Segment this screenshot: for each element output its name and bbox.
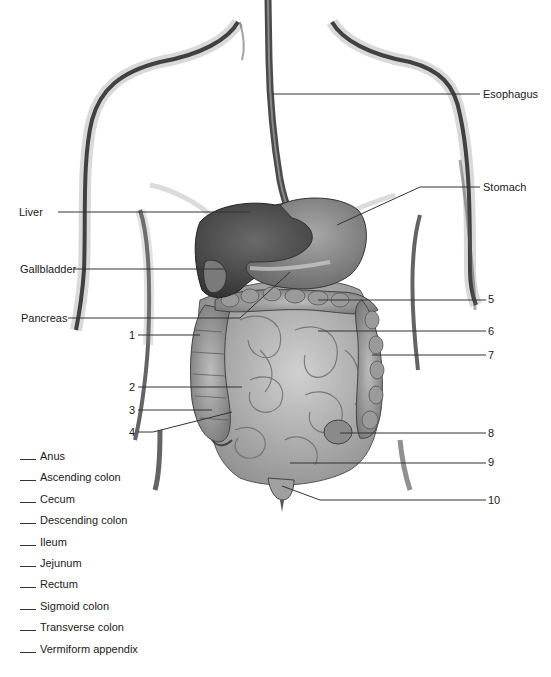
label-number-7: 7 <box>488 349 494 362</box>
word-bank-item: Jejunum <box>20 557 138 578</box>
label-number-8: 8 <box>488 427 494 440</box>
word-bank-item: Anus <box>20 450 138 471</box>
answer-blank[interactable] <box>20 621 36 631</box>
answer-blank[interactable] <box>20 578 36 588</box>
label-gallbladder: Gallbladder <box>20 263 76 276</box>
label-number-10: 10 <box>488 494 500 507</box>
word-bank-item: Cecum <box>20 493 138 514</box>
label-number-4: 4 <box>129 426 135 439</box>
label-number-5: 5 <box>488 293 494 306</box>
word-bank-item: Transverse colon <box>20 621 138 642</box>
answer-blank[interactable] <box>20 557 36 567</box>
label-esophagus: Esophagus <box>483 88 538 101</box>
word-bank-item: Vermiform appendix <box>20 643 138 664</box>
answer-blank[interactable] <box>20 536 36 546</box>
label-stomach: Stomach <box>483 181 526 194</box>
label-pancreas: Pancreas <box>21 312 67 325</box>
word-bank-item: Rectum <box>20 578 138 599</box>
label-liver: Liver <box>19 206 43 219</box>
label-number-9: 9 <box>488 456 494 469</box>
label-number-6: 6 <box>488 325 494 338</box>
word-bank-item: Sigmoid colon <box>20 600 138 621</box>
answer-blank[interactable] <box>20 450 36 460</box>
label-number-3: 3 <box>129 404 135 417</box>
label-number-2: 2 <box>129 381 135 394</box>
answer-blank[interactable] <box>20 643 36 653</box>
label-number-1: 1 <box>129 329 135 342</box>
word-bank-item: Ileum <box>20 536 138 557</box>
word-bank: Anus Ascending colon Cecum Descending co… <box>20 450 138 664</box>
word-bank-item: Descending colon <box>20 514 138 535</box>
intestines <box>191 280 384 512</box>
answer-blank[interactable] <box>20 493 36 503</box>
word-bank-item: Ascending colon <box>20 471 138 492</box>
answer-blank[interactable] <box>20 514 36 524</box>
answer-blank[interactable] <box>20 600 36 610</box>
answer-blank[interactable] <box>20 471 36 481</box>
